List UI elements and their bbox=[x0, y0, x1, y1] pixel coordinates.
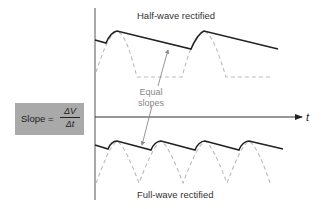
slope-formula-box: Slope = ΔV Δt bbox=[15, 103, 84, 135]
annotation-arrow-down bbox=[142, 106, 152, 145]
slope-fraction: ΔV Δt bbox=[60, 105, 80, 130]
slope-denominator: Δt bbox=[60, 118, 80, 130]
annotation-arrow-up bbox=[158, 50, 168, 86]
time-axis-label: t bbox=[306, 111, 309, 123]
equal-slopes-annotation: Equal slopes bbox=[131, 87, 171, 109]
slope-prefix: Slope = bbox=[21, 113, 54, 124]
half-wave-output bbox=[95, 31, 278, 49]
half-wave-title: Half-wave rectified bbox=[137, 10, 215, 21]
slope-numerator: ΔV bbox=[60, 105, 80, 118]
rectifier-ripple-diagram: Half-wave rectified Full-wave rectified … bbox=[0, 0, 324, 209]
half-wave-input-dashed bbox=[96, 31, 270, 77]
full-wave-title: Full-wave rectified bbox=[137, 189, 214, 200]
annotation-line1: Equal bbox=[131, 87, 171, 98]
annotation-line2: slopes bbox=[131, 98, 171, 109]
